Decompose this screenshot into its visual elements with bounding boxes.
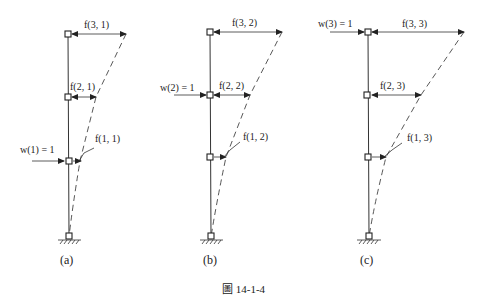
- column-line: [68, 34, 69, 237]
- fixed-support-icon: [58, 233, 81, 244]
- column-line: [368, 32, 369, 237]
- node-3: [207, 29, 213, 35]
- panel-label: (a): [60, 253, 73, 267]
- flexibility-diagram: f(3, 1) f(2, 1) f(1, 1) w(1) = 1 (a) f(3…: [0, 0, 483, 299]
- node-2: [65, 94, 71, 100]
- panel-c: f(3, 3) f(2, 3) f(1, 3) w(3) = 1 (c): [318, 18, 464, 267]
- load-label: w(3) = 1: [318, 18, 353, 30]
- node-1: [66, 158, 72, 164]
- flex-label-f12: f(1, 2): [243, 131, 268, 143]
- fixed-support-icon: [200, 233, 223, 244]
- node-1: [365, 154, 371, 160]
- fixed-support-icon: [357, 233, 381, 244]
- panel-b: f(3, 2) f(2, 2) f(1, 2) w(2) = 1 (b): [160, 17, 282, 267]
- node-1: [207, 154, 213, 160]
- flex-label-f23: f(2, 3): [380, 80, 405, 92]
- flex-label-f22: f(2, 2): [219, 80, 244, 92]
- column-line: [210, 32, 211, 237]
- load-label: w(1) = 1: [20, 144, 55, 156]
- flex-label-f11: f(1, 1): [95, 133, 120, 145]
- node-2: [364, 92, 370, 98]
- panel-label: (c): [360, 253, 373, 267]
- flex-label-f13: f(1, 3): [407, 132, 432, 144]
- node-3: [65, 31, 71, 37]
- flex-label-f31: f(3, 1): [84, 19, 109, 31]
- figure-caption: 圖 14-1-4: [222, 283, 266, 295]
- panel-label: (b): [203, 253, 217, 267]
- node-3: [365, 29, 371, 35]
- flex-label-f33: f(3, 3): [402, 18, 427, 30]
- label-leader-line: [224, 142, 240, 157]
- load-label: w(2) = 1: [160, 82, 195, 94]
- label-leader-line: [79, 148, 94, 161]
- node-2: [207, 92, 213, 98]
- flex-label-f32: f(3, 2): [232, 17, 257, 29]
- panel-a: f(3, 1) f(2, 1) f(1, 1) w(1) = 1 (a): [20, 19, 126, 267]
- flex-label-f21: f(2, 1): [70, 81, 95, 93]
